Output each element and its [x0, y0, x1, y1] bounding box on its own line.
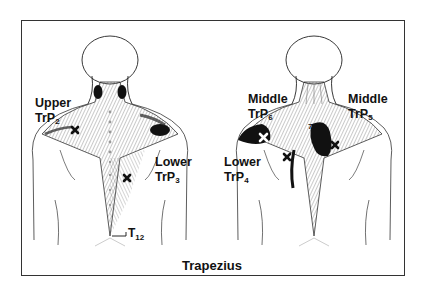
right-figure	[236, 36, 391, 246]
label-lower-trp4: Lower TrP4	[224, 155, 261, 188]
label-lower-trp3: Lower TrP3	[155, 155, 192, 188]
referral-zone	[292, 150, 294, 188]
referral-zone	[150, 124, 170, 136]
label-upper-trp2: Upper TrP2	[35, 96, 71, 129]
trigger-point-x-icon	[284, 154, 290, 160]
label-middle-trp6: Middle TrP6	[248, 92, 288, 125]
figure-caption: Trapezius	[0, 258, 424, 273]
label-t12: T12	[128, 226, 144, 242]
trapezius-illustration	[0, 0, 424, 298]
label-c7: 7	[308, 122, 312, 131]
referral-zone	[94, 85, 103, 99]
head-outline	[82, 36, 138, 84]
referral-zone	[118, 85, 127, 99]
label-middle-trp5: Middle TrP5	[348, 92, 388, 125]
head-outline	[286, 36, 342, 84]
left-figure	[32, 36, 187, 246]
